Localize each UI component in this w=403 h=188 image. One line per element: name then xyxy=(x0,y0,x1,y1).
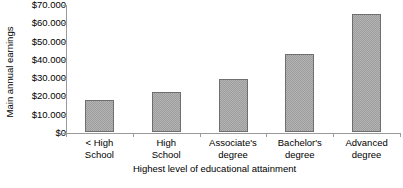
x-axis-category-label: < HighSchool xyxy=(66,137,132,160)
x-axis-category-label-line: Bachelor's xyxy=(267,137,333,149)
x-axis-category-label-line: degree xyxy=(334,149,400,161)
x-axis-category-label: HighSchool xyxy=(133,137,199,160)
y-axis-tick-mark xyxy=(63,5,67,6)
x-axis-tick-mark xyxy=(200,133,201,137)
y-axis-tick-mark xyxy=(63,115,67,116)
y-axis-tick-mark xyxy=(63,42,67,43)
y-axis-tick-label: $60.000 xyxy=(14,18,66,28)
x-axis-line xyxy=(66,133,400,134)
bar-chart: Main annual earnings $70.000$60.000$50.0… xyxy=(0,0,403,188)
bar xyxy=(285,54,314,132)
clipped-footer-text xyxy=(0,180,403,188)
x-axis-category-label: Bachelor'sdegree xyxy=(267,137,333,160)
x-axis-tick-mark xyxy=(333,133,334,137)
y-axis-tick-mark xyxy=(63,78,67,79)
x-axis-category-label-line: Advanced xyxy=(334,137,400,149)
x-axis-category-label-line: High xyxy=(133,137,199,149)
y-axis-tick-label: $70.000 xyxy=(14,0,66,10)
y-axis-tick-mark xyxy=(63,96,67,97)
x-axis-tick-mark xyxy=(266,133,267,137)
y-axis-tick-label: $10.000 xyxy=(14,110,66,120)
x-axis-category-label-line: School xyxy=(66,149,132,161)
x-axis-category-label-line: degree xyxy=(200,149,266,161)
x-axis-tick-mark xyxy=(400,133,401,137)
y-axis-tick-mark xyxy=(63,60,67,61)
y-axis-tick-label: $30.000 xyxy=(14,73,66,83)
plot-area xyxy=(66,5,400,133)
bar xyxy=(85,100,114,132)
x-axis-title: Highest level of educational attainment xyxy=(0,162,403,175)
x-axis-category-label: Advanceddegree xyxy=(334,137,400,160)
x-axis-category-label-line: < High xyxy=(66,137,132,149)
x-axis-category-label-line: degree xyxy=(267,149,333,161)
bar xyxy=(152,92,181,132)
x-axis-category-label-line: School xyxy=(133,149,199,161)
x-axis-category-label-line: Associate's xyxy=(200,137,266,149)
x-axis-category-labels: < HighSchoolHighSchoolAssociate'sdegreeB… xyxy=(66,137,400,163)
bar xyxy=(352,14,381,132)
y-axis-tick-label: $40.000 xyxy=(14,55,66,65)
bar xyxy=(219,79,248,132)
x-axis-category-label: Associate'sdegree xyxy=(200,137,266,160)
y-axis-tick-label: $20.000 xyxy=(14,91,66,101)
y-axis-tick-label: $0 xyxy=(14,128,66,138)
y-axis-tick-label: $50.000 xyxy=(14,37,66,47)
x-axis-tick-mark xyxy=(66,133,67,137)
y-axis-tick-labels: $70.000$60.000$50.000$40.000$30.000$20.0… xyxy=(14,0,66,188)
y-axis-tick-mark xyxy=(63,23,67,24)
x-axis-tick-mark xyxy=(133,133,134,137)
